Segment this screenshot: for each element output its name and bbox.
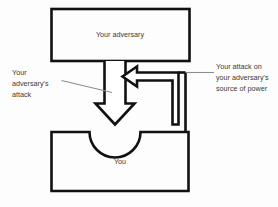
diagram-canvas: Your adversary You Your adversary's atta… [0,0,278,207]
adversary-attack-arrow [96,61,135,125]
your-attack-label-line-3: source of power [216,84,268,93]
adversary-attack-label-line-1: Your [12,68,27,77]
adversary-attack-label-line-3: attack [12,90,32,99]
your-attack-label-line-1: Your attack on [216,62,262,71]
diagram-svg: Your adversary You Your adversary's atta… [0,0,278,207]
adversary-attack-label-line-2: adversary's [12,79,49,88]
you-box-label: You [114,157,126,166]
your-attack-label-line-2: your adversary's [216,73,269,82]
adversary-box-label: Your adversary [96,30,144,39]
your-attack-arrow [123,67,179,125]
